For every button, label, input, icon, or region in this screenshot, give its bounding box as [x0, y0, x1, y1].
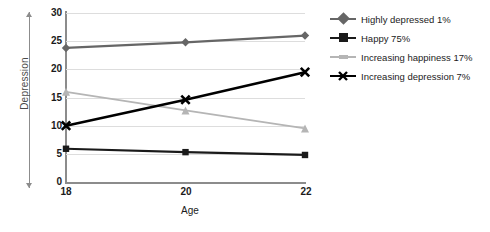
series-layer: [66, 13, 305, 182]
series-1: [63, 146, 308, 159]
series-0: [62, 31, 309, 52]
legend-marker-x-icon: [330, 69, 356, 83]
y-tick-label-10: 10: [36, 120, 62, 131]
legend-marker-triangle-icon: [330, 50, 356, 64]
legend: Highly depressed 1% Happy 75% Increasing…: [330, 10, 488, 86]
legend-label-1: Happy 75%: [361, 33, 410, 44]
legend-label-0: Highly depressed 1%: [361, 14, 451, 25]
legend-label-3: Increasing depression 7%: [361, 71, 470, 82]
legend-marker-square-icon: [330, 31, 356, 45]
x-tick-label-18: 18: [51, 186, 81, 197]
y-tick-label-30: 30: [36, 7, 62, 18]
chart-container: Depression 30 25 20 15 10 5 0 18 20 22 A…: [0, 0, 490, 232]
series-2: [62, 88, 309, 133]
y-tick-label-5: 5: [36, 148, 62, 159]
y-axis-title-group: Depression: [6, 12, 40, 188]
legend-item-happy[interactable]: Happy 75%: [330, 29, 488, 47]
x-axis-line: [66, 182, 306, 184]
legend-label-2: Increasing happiness 17%: [361, 52, 472, 63]
plot-area: [66, 13, 305, 182]
legend-item-highly-depressed[interactable]: Highly depressed 1%: [330, 10, 488, 28]
y-tick-label-20: 20: [36, 63, 62, 74]
legend-item-increasing-depression[interactable]: Increasing depression 7%: [330, 67, 488, 85]
x-axis-title: Age: [150, 205, 230, 216]
series-3: [62, 68, 309, 130]
x-tick-label-20: 20: [171, 186, 201, 197]
y-tick-label-25: 25: [36, 35, 62, 46]
x-tick-label-22: 22: [291, 186, 321, 197]
y-tick-label-15: 15: [36, 92, 62, 103]
y-axis-title: Depression: [19, 44, 30, 124]
legend-marker-diamond-icon: [330, 12, 356, 26]
legend-item-increasing-happiness[interactable]: Increasing happiness 17%: [330, 48, 488, 66]
